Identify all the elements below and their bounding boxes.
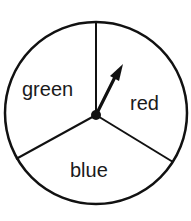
section-label-red: red <box>130 92 159 114</box>
spinner-diagram: green red blue <box>0 0 191 221</box>
spinner-pivot <box>91 110 101 120</box>
section-label-green: green <box>22 78 73 100</box>
section-label-blue: blue <box>70 159 108 181</box>
